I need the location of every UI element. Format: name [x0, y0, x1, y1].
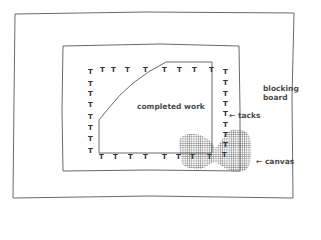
tack: T: [223, 122, 228, 129]
tack: T: [176, 154, 181, 161]
canvas-label: ← canvas: [256, 157, 294, 166]
tack: T: [88, 69, 93, 76]
tack: T: [177, 67, 182, 74]
tack: T: [143, 154, 148, 161]
tack: T: [88, 91, 93, 98]
tack: T: [223, 132, 228, 139]
tacks-label: ← tacks: [229, 111, 260, 120]
tack: T: [111, 67, 116, 74]
tack: T: [100, 67, 105, 74]
tack: T: [113, 154, 118, 161]
tack: T: [190, 154, 195, 161]
canvas-area: [179, 130, 251, 172]
tack: T: [162, 67, 167, 74]
tack: T: [223, 101, 228, 108]
tack: T: [125, 67, 130, 74]
tack: T: [88, 125, 93, 132]
tack: T: [223, 91, 228, 98]
blocking-board-label-line1: blocking: [263, 84, 299, 93]
completed-work-label: completed work: [137, 102, 205, 111]
tack: T: [88, 102, 93, 109]
tack: T: [99, 154, 104, 161]
tack: T: [222, 152, 227, 159]
tack: T: [223, 69, 228, 76]
tack: T: [128, 154, 133, 161]
tack: T: [162, 154, 167, 161]
tack: T: [88, 114, 93, 121]
tack: T: [192, 67, 197, 74]
blocking-board-label-line2: board: [263, 93, 288, 102]
tack: T: [143, 67, 148, 74]
tack: T: [207, 154, 212, 161]
tack: T: [223, 80, 228, 87]
tack: T: [88, 81, 93, 88]
tack: T: [209, 67, 214, 74]
tack: T: [88, 148, 93, 155]
tack: T: [223, 111, 228, 118]
tack: T: [88, 136, 93, 143]
tack: T: [223, 142, 228, 149]
